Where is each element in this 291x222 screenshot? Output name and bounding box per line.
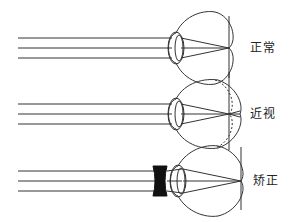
panel-normal [18,12,233,85]
eye-optics-diagram [0,0,291,222]
panel-corrected [18,146,243,217]
incoming-rays [18,171,155,191]
diverging-rays [167,169,182,193]
label-myopia: 近视 [250,107,275,121]
label-normal: 正常 [250,41,275,55]
refracted-rays [181,104,240,124]
label-corrected: 矫正 [253,174,278,188]
refracted-rays [181,38,229,58]
incoming-rays [18,38,172,58]
incoming-rays [18,104,172,124]
panel-myopia [18,72,241,150]
refracted-rays [183,169,241,193]
concave-lens [153,166,167,196]
